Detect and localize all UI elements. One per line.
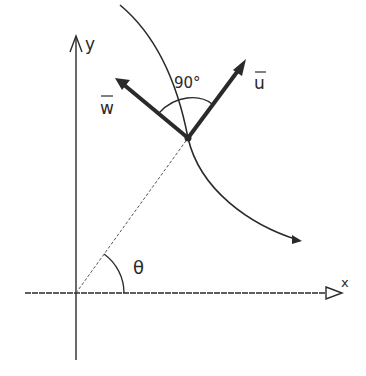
x-axis-arrow-icon xyxy=(326,287,342,299)
point-marker xyxy=(185,135,192,142)
y-axis-label: y xyxy=(85,34,95,54)
x-axis: x xyxy=(25,275,349,299)
theta-arc xyxy=(104,254,124,293)
right-angle-label: 90° xyxy=(174,74,201,92)
y-axis: y xyxy=(70,34,95,360)
vector-u-label: u xyxy=(254,73,265,93)
position-line xyxy=(76,138,188,293)
diagram-canvas: y x θ 90° u w xyxy=(0,0,366,376)
right-angle-arc xyxy=(159,98,212,113)
trajectory-curve xyxy=(120,5,298,240)
x-axis-label: x xyxy=(341,275,349,290)
vector-w-label: w xyxy=(100,98,114,118)
curve-arrow-icon xyxy=(292,235,302,244)
theta-label: θ xyxy=(133,257,144,278)
